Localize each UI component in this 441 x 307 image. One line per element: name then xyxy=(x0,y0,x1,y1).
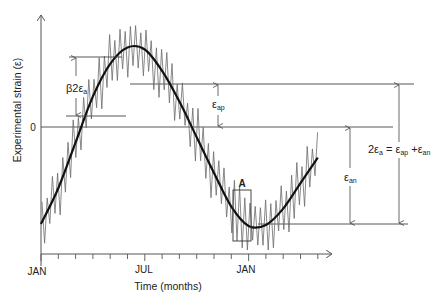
strain-chart: A 0 JAN JUL JAN Time (months) Experiment… xyxy=(0,0,441,307)
y-zero-label: 0 xyxy=(30,122,36,133)
y-axis-title: Experimental strain (ε) xyxy=(11,58,23,162)
x-axis-ticks xyxy=(41,254,318,261)
box-a-label: A xyxy=(238,178,245,189)
x-label-jan-start: JAN xyxy=(28,266,47,277)
x-axis-title: Time (months) xyxy=(134,280,201,292)
eps-an-label: εan xyxy=(344,171,357,184)
x-label-jan-end: JAN xyxy=(237,264,256,275)
x-label-jul: JUL xyxy=(135,264,153,275)
beta-amplitude-label: β2εa xyxy=(66,82,87,95)
total-amplitude-label: 2εa = εap +εan xyxy=(368,143,430,157)
eps-ap-label: εap xyxy=(212,98,225,112)
